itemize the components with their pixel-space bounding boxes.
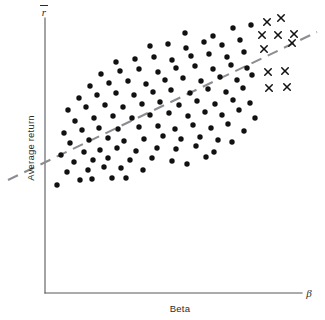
scatter-point	[85, 167, 90, 172]
scatter-cross-marker	[284, 84, 291, 91]
scatter-cross-marker	[259, 32, 266, 39]
scatter-point	[151, 54, 156, 59]
scatter-point	[187, 90, 192, 95]
scatter-point	[120, 104, 125, 109]
scatter-point	[127, 157, 132, 162]
scatter-point	[240, 85, 245, 90]
scatter-point	[172, 126, 177, 131]
scatter-dots-group	[54, 22, 257, 187]
scatter-point	[105, 135, 110, 140]
scatter-point	[129, 115, 134, 120]
scatter-point	[234, 77, 239, 82]
scatter-point	[94, 92, 99, 97]
scatter-point	[208, 125, 213, 130]
scatter-point	[212, 101, 217, 106]
scatter-cross-marker	[275, 32, 282, 39]
scatter-cross-marker	[289, 40, 296, 47]
scatter-point	[83, 104, 88, 109]
scatter-point	[203, 154, 208, 159]
x-axis-label: Beta	[170, 303, 191, 314]
scatter-point	[65, 107, 70, 112]
scatter-point	[252, 115, 257, 120]
scatter-point	[141, 136, 146, 141]
scatter-point	[61, 130, 66, 135]
scatter-point	[110, 113, 115, 118]
x-axis-symbol: β	[305, 287, 312, 299]
scatter-cross-marker	[282, 68, 289, 75]
scatter-point	[184, 161, 189, 166]
scatter-point	[215, 137, 220, 142]
scatter-point	[219, 112, 224, 117]
scatter-point	[101, 164, 106, 169]
scatter-point	[201, 39, 206, 44]
scatter-point	[143, 81, 148, 86]
scatter-point	[228, 62, 233, 67]
scatter-point	[97, 147, 102, 152]
scatter-point	[192, 63, 197, 68]
scatter-point	[76, 95, 81, 100]
scatter-point	[202, 109, 207, 114]
scatter-point	[230, 25, 235, 30]
scatter-point	[136, 66, 141, 71]
scatter-point	[154, 145, 159, 150]
scatter-point	[229, 139, 234, 144]
regression-dashed-line	[8, 32, 317, 180]
scatter-point	[223, 89, 228, 94]
scatter-point	[165, 41, 170, 46]
scatter-point	[219, 42, 224, 47]
scatter-point	[106, 80, 111, 85]
scatter-crosses-group	[259, 15, 298, 92]
scatter-point	[182, 30, 187, 35]
scatter-point	[194, 98, 199, 103]
scatter-point	[247, 100, 252, 105]
scatter-point	[249, 72, 254, 77]
scatter-cross-marker	[291, 31, 298, 38]
scatter-point	[86, 137, 91, 142]
scatter-point	[115, 126, 120, 131]
scatter-point	[96, 125, 101, 130]
scatter-point	[210, 33, 215, 38]
scatter-point	[166, 110, 171, 115]
scatter-point	[236, 107, 241, 112]
fit-line-group	[8, 32, 317, 180]
scatter-point	[188, 53, 193, 58]
scatter-cross-marker	[265, 69, 272, 76]
scatter-point	[205, 86, 210, 91]
scatter-point	[244, 65, 249, 70]
scatter-point	[180, 75, 185, 80]
scatter-point	[114, 145, 119, 150]
scatter-point	[237, 37, 242, 42]
scatter-point	[136, 124, 141, 129]
scatter-point	[102, 102, 107, 107]
scatter-point	[241, 128, 246, 133]
scatter-point	[131, 92, 136, 97]
scatter-point	[64, 169, 69, 174]
scatter-point	[173, 146, 178, 151]
scatter-point	[113, 59, 118, 64]
scatter-point	[139, 101, 144, 106]
scatter-point	[197, 134, 202, 139]
scatter-point	[121, 138, 126, 143]
scatter-point	[98, 71, 103, 76]
scatter-point	[155, 69, 160, 74]
scatter-point	[173, 65, 178, 70]
scatter-point	[147, 112, 152, 117]
scatter-point	[230, 97, 235, 102]
scatter-point	[91, 115, 96, 120]
scatter-point	[193, 143, 198, 148]
scatter-point	[132, 56, 137, 61]
scatter-point	[113, 90, 118, 95]
scatter-point	[225, 121, 230, 126]
scatter-point	[150, 89, 155, 94]
scatter-point	[105, 155, 110, 160]
scatter-point	[206, 51, 211, 56]
scatter-point	[149, 155, 154, 160]
scatter-point	[79, 127, 84, 132]
scatter-point	[178, 136, 183, 141]
scatter-point	[67, 140, 72, 145]
scatter-point	[117, 68, 122, 73]
scatter-point	[198, 78, 203, 83]
scatter-point	[118, 165, 123, 170]
scatter-point	[123, 175, 128, 180]
scatter-point	[90, 157, 95, 162]
